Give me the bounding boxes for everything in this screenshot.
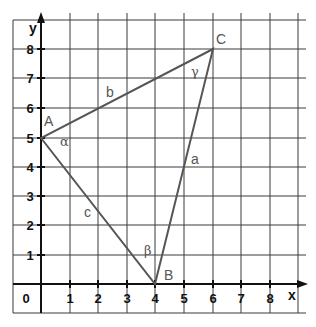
x-tick-label: 4: [151, 291, 159, 306]
y-axis-label: y: [29, 20, 37, 36]
y-tick-label: 3: [26, 189, 33, 204]
axes: [13, 12, 308, 313]
y-tick-labels: 1 2 3 4 5 6 7 8 y: [26, 20, 37, 263]
y-tick-label: 6: [26, 101, 33, 116]
angle-label-gamma: γ: [191, 64, 199, 79]
y-tick-label: 1: [26, 248, 33, 263]
y-tick-label: 5: [26, 131, 33, 146]
x-tick-label: 1: [66, 291, 73, 306]
y-tick-label: 8: [26, 42, 33, 57]
y-tick-label: 2: [26, 218, 33, 233]
vertex-label-b: B: [164, 267, 173, 283]
y-tick-label: 4: [26, 160, 34, 175]
angle-label-alpha: α: [60, 134, 69, 149]
origin-label: 0: [22, 291, 29, 306]
x-axis-label: x: [288, 287, 296, 303]
y-axis-arrow-icon: [37, 12, 45, 23]
x-tick-label: 6: [209, 291, 216, 306]
x-tick-label: 7: [237, 291, 244, 306]
side-label-b: b: [106, 84, 114, 100]
x-tick-labels: 0 1 2 3 4 5 6 7 8 x: [22, 287, 296, 306]
x-axis-arrow-icon: [297, 280, 308, 288]
vertex-label-c: C: [216, 31, 226, 47]
side-label-a: a: [191, 151, 199, 167]
x-tick-label: 8: [266, 291, 273, 306]
x-tick-label: 2: [94, 291, 101, 306]
coordinate-diagram: 0 1 2 3 4 5 6 7 8 x 1 2 3 4 5 6 7 8 y A …: [0, 0, 316, 327]
y-tick-label: 7: [26, 71, 33, 86]
x-tick-label: 5: [180, 291, 187, 306]
side-label-c: c: [84, 204, 91, 220]
vertex-label-a: A: [44, 113, 54, 129]
angle-label-beta: β: [144, 243, 152, 258]
x-tick-label: 3: [123, 291, 130, 306]
